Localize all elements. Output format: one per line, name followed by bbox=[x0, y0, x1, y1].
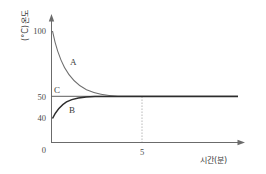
y-tick-label-40: 40 bbox=[38, 113, 47, 123]
x-axis-caption: 시간(분) bbox=[200, 155, 227, 165]
x-tick-label-5: 5 bbox=[140, 147, 144, 157]
y-tick-label-100: 100 bbox=[33, 26, 46, 36]
curve-label-a: A bbox=[70, 57, 77, 67]
temperature-time-chart: 100 50 40 0 5 A B C 시간(분) (°C) 온도 bbox=[0, 0, 266, 174]
origin-label: 0 bbox=[42, 145, 46, 155]
y-axis-caption-unit: (°C) bbox=[21, 25, 30, 41]
y-axis-caption-name: 온도 bbox=[21, 10, 30, 24]
curve-label-b: B bbox=[69, 105, 75, 115]
chart-svg: 100 50 40 0 5 A B C 시간(분) (°C) 온도 bbox=[0, 0, 266, 174]
y-tick-label-50: 50 bbox=[38, 92, 47, 102]
curve-label-c: C bbox=[54, 85, 60, 95]
